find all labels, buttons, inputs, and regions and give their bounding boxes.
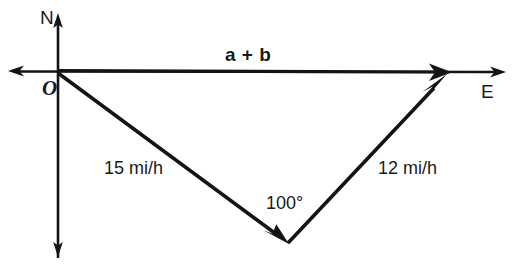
origin-label: O — [42, 78, 57, 99]
vector-b-magnitude-label: 12 mi/h — [378, 159, 437, 177]
north-axis — [53, 13, 63, 258]
vector-a-arrow — [58, 73, 289, 244]
north-axis-label: N — [40, 8, 54, 27]
interior-angle-label: 100° — [266, 194, 303, 212]
vector-a-magnitude-label: 15 mi/h — [104, 159, 163, 177]
vector-resultant-arrow — [58, 63, 452, 81]
vector-diagram-figure: N E O a + b 15 mi/h 12 mi/h 100° — [0, 0, 516, 265]
resultant-vector-label: a + b — [225, 45, 271, 64]
east-axis-label: E — [481, 82, 494, 101]
vector-diagram-canvas — [0, 0, 516, 265]
